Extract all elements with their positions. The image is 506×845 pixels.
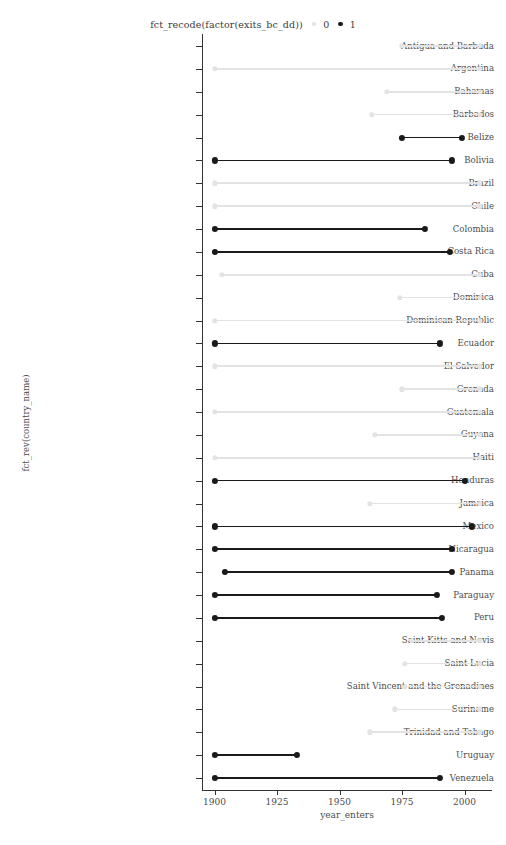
legend-label-1: 1	[350, 19, 356, 30]
segment-line	[225, 571, 453, 573]
segment-line	[215, 365, 480, 367]
y-axis-line	[202, 34, 203, 790]
y-axis-tick	[196, 206, 202, 207]
x-axis-tick	[340, 790, 341, 795]
y-axis-label: Uruguay	[316, 751, 506, 760]
segment-line	[215, 251, 450, 253]
legend-label-0: 0	[323, 19, 329, 30]
legend-title: fct_recode(factor(exits_bc_dd))	[150, 19, 303, 30]
y-axis-tick	[196, 778, 202, 779]
y-axis-tick	[196, 732, 202, 733]
y-axis-tick	[196, 389, 202, 390]
x-axis-label: 1900	[203, 797, 226, 807]
x-axis-title: year_enters	[202, 810, 492, 820]
y-axis-tick	[196, 595, 202, 596]
x-axis-tick	[402, 790, 403, 795]
segment-line	[400, 297, 480, 299]
segment-line	[402, 388, 480, 390]
segment-line	[215, 160, 453, 162]
y-axis-tick	[196, 275, 202, 276]
segment-line	[222, 274, 480, 276]
y-axis-tick	[196, 252, 202, 253]
segment-line	[215, 526, 473, 528]
segment-line	[395, 709, 480, 711]
y-axis-tick	[196, 138, 202, 139]
segment-line	[215, 617, 443, 619]
y-axis-tick	[196, 115, 202, 116]
y-axis-title-text: fct_rev(country_name)	[21, 374, 31, 471]
x-axis-label: 1975	[391, 797, 414, 807]
y-axis-tick	[196, 183, 202, 184]
segment-line	[375, 434, 480, 436]
segment-line	[370, 731, 480, 733]
y-axis-tick	[196, 687, 202, 688]
y-axis-tick	[196, 412, 202, 413]
x-axis-line	[202, 790, 492, 791]
segment-line	[215, 320, 480, 322]
legend-dot-0-icon	[312, 22, 317, 27]
y-axis-tick	[196, 641, 202, 642]
y-axis-tick	[196, 366, 202, 367]
segment-line	[402, 137, 462, 139]
y-axis-tick	[196, 321, 202, 322]
segment-line	[215, 182, 480, 184]
y-axis-tick	[196, 92, 202, 93]
segment-line	[370, 503, 480, 505]
legend-key-1: 1	[338, 19, 356, 30]
segment-line	[215, 457, 480, 459]
x-axis-label: 1950	[328, 797, 351, 807]
x-axis-tick	[215, 790, 216, 795]
segment-line	[215, 343, 440, 345]
x-axis-label: 2000	[453, 797, 476, 807]
segment-line	[405, 686, 480, 688]
y-axis-tick	[196, 572, 202, 573]
legend: fct_recode(factor(exits_bc_dd)) 0 1	[0, 14, 506, 34]
segment-line	[215, 777, 440, 779]
y-axis-tick	[196, 618, 202, 619]
y-axis-tick	[196, 549, 202, 550]
y-axis-tick	[196, 160, 202, 161]
y-axis-tick	[196, 458, 202, 459]
segment-line	[215, 754, 298, 756]
y-axis-title: fct_rev(country_name)	[18, 0, 34, 845]
y-axis-tick	[196, 46, 202, 47]
segment-line	[215, 594, 438, 596]
y-axis-tick	[196, 298, 202, 299]
segment-line	[372, 114, 480, 116]
segment-line	[215, 205, 480, 207]
segment-line	[405, 663, 480, 665]
legend-key-0: 0	[312, 19, 330, 30]
segment-line	[215, 548, 453, 550]
y-axis-tick	[196, 69, 202, 70]
y-axis-tick	[196, 526, 202, 527]
y-axis-tick	[196, 755, 202, 756]
x-axis-tick	[277, 790, 278, 795]
legend-dot-1-icon	[338, 22, 343, 27]
x-axis-label: 1925	[266, 797, 289, 807]
dumbbell-chart: fct_recode(factor(exits_bc_dd)) 0 1 fct_…	[0, 0, 506, 845]
segment-line	[412, 640, 480, 642]
segment-line	[215, 480, 465, 482]
segment-line	[387, 91, 480, 93]
x-axis-tick	[465, 790, 466, 795]
y-axis-tick	[196, 709, 202, 710]
segment-line	[215, 228, 425, 230]
y-axis-tick	[196, 229, 202, 230]
y-axis-tick	[196, 664, 202, 665]
segment-line	[215, 411, 480, 413]
segment-line	[402, 45, 480, 47]
y-axis-tick	[196, 481, 202, 482]
segment-line	[215, 68, 480, 70]
y-axis-tick	[196, 435, 202, 436]
y-axis-tick	[196, 343, 202, 344]
y-axis-tick	[196, 504, 202, 505]
